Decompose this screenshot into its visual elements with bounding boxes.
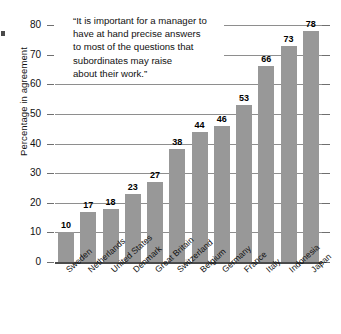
quote-line-4: subordinates may raise (73, 54, 223, 67)
bar-chart: Percentage in agreement 0102030405060708… (0, 0, 341, 334)
bar (236, 105, 252, 262)
quote-line-5: about their work.” (73, 67, 223, 80)
bar-value-label: 46 (207, 114, 237, 124)
bar-value-label: 18 (96, 197, 126, 207)
quote-line-2: have at hand precise answers (73, 27, 223, 40)
quote-line-3: to most of the questions that (73, 40, 223, 53)
bar (214, 126, 230, 262)
bar (303, 31, 319, 262)
bar (281, 46, 297, 262)
y-tick-mark-0 (47, 262, 54, 263)
bar-value-label: 78 (296, 19, 326, 29)
bar-value-label: 66 (251, 54, 281, 64)
bar-value-label: 38 (162, 137, 192, 147)
bar (258, 66, 274, 262)
quote-line-1: “It is important for a manager to (73, 14, 223, 27)
bar-value-label: 10 (51, 220, 81, 230)
bar-value-label: 23 (118, 182, 148, 192)
bar (58, 232, 74, 262)
quote-annotation: “It is important for a manager tohave at… (73, 14, 223, 80)
bar-value-label: 53 (229, 93, 259, 103)
bar-value-label: 73 (274, 34, 304, 44)
bar-value-label: 27 (140, 170, 170, 180)
